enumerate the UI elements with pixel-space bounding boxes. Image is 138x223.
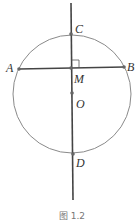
figure-caption: 图 1.2 [59, 211, 85, 221]
label-A: A [5, 61, 14, 75]
geometry-figure: C A B M O D 图 1.2 [0, 0, 138, 223]
label-O: O [76, 97, 85, 111]
label-C: C [75, 22, 84, 36]
point-B [122, 65, 126, 69]
label-B: B [127, 60, 135, 74]
label-M: M [73, 72, 85, 86]
right-angle-mark [72, 60, 80, 68]
point-M [69, 66, 73, 70]
point-D [71, 152, 75, 156]
point-A [17, 67, 21, 71]
label-D: D [75, 156, 85, 170]
point-O [70, 91, 74, 95]
point-C [69, 32, 73, 36]
